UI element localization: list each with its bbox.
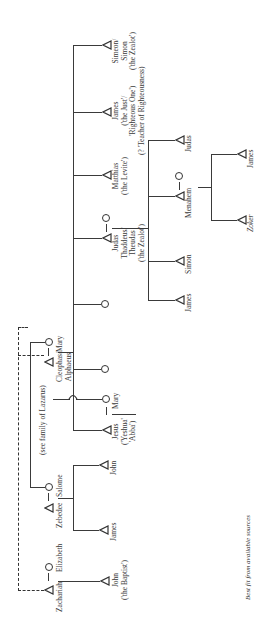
- judas-children-top: [148, 140, 149, 210]
- salome-female-icon: [45, 483, 53, 491]
- label-judas-son: Judas: [185, 135, 194, 152]
- line-to-judas-thaddeus: [73, 238, 102, 239]
- mary-wife-female-icon: [102, 395, 110, 403]
- label-james-just: James ('the Just'/ 'Righteous One') (? '…: [112, 66, 146, 155]
- line-crossover: [68, 394, 78, 400]
- label-matthias: Matthias ('the Levite'): [112, 157, 129, 195]
- dashed-link-zachariah: [18, 590, 44, 591]
- line-to-judas-son: [148, 140, 175, 141]
- zachariah-male-icon: [44, 585, 54, 595]
- line-zebedee-children: [58, 498, 74, 499]
- marriage-zachariah: [48, 573, 49, 581]
- label-simeon: Simeon/ Simon ('the Zealot'): [112, 32, 138, 70]
- line-menahem-children: [198, 187, 211, 188]
- line-to-jesus: [73, 430, 102, 431]
- marriage-judas: [106, 224, 107, 232]
- elizabeth-female-icon: [45, 563, 53, 571]
- zebedee-male-icon: [44, 503, 54, 513]
- line-to-james-menahem: [211, 154, 237, 155]
- label-john-baptist: John ('the Baptist'): [112, 560, 129, 600]
- label-james-son: James: [185, 294, 194, 312]
- line-to-zoker: [211, 220, 237, 221]
- line-to-simon-son: [148, 261, 175, 262]
- line-to-matthias: [73, 175, 102, 176]
- label-simon-son: Simon: [185, 254, 194, 274]
- john-baptist-male-icon: [100, 576, 110, 586]
- judas-children-bar: [148, 209, 149, 300]
- line-to-john-baptist: [58, 581, 100, 582]
- label-mary-wife: Mary: [112, 393, 121, 409]
- label-john-zebedee: John: [110, 461, 119, 475]
- label-zoker: Zoker: [247, 215, 256, 233]
- line-salome-mary: [30, 342, 31, 488]
- marriage-menahem: [179, 182, 180, 190]
- line-cleophas-children: [58, 352, 74, 353]
- line-to-james-son: [148, 300, 175, 301]
- john-zebedee-male-icon: [99, 460, 109, 470]
- label-menahem: Menahem: [185, 188, 194, 218]
- dashed-link-top: [18, 327, 28, 328]
- label-james-zebedee: James: [110, 523, 119, 541]
- line-mary-link: [30, 342, 45, 343]
- line-to-daughter-2: [73, 304, 101, 305]
- line-to-menahem: [148, 196, 175, 197]
- label-elizabeth: Elizabeth: [56, 544, 65, 572]
- judas-wife-female-icon: [102, 214, 110, 222]
- daughter-1-female-icon: [101, 365, 109, 373]
- label-james-menahem: James: [247, 150, 256, 168]
- label-jesus: Jesus ('Yeshua' 'Abba'): [112, 418, 138, 445]
- marriage-jesus: [106, 407, 107, 415]
- marriage-cleophas: [48, 348, 49, 356]
- label-judas-thaddeus: Judas Thaddeus/ Theudas ('the Zealot'): [112, 224, 146, 262]
- jesus-descendant-bar: [112, 414, 136, 415]
- zebedee-children-bar: [73, 465, 74, 531]
- label-zachariah: Zachariah: [56, 582, 65, 612]
- label-salome: Salome: [56, 475, 65, 498]
- line-judas-children: [112, 228, 148, 229]
- daughter-2-female-icon: [101, 300, 109, 308]
- line-to-james-just: [73, 112, 102, 113]
- line-to-james-z: [73, 530, 99, 531]
- line-salome-link: [30, 487, 45, 488]
- line-to-mary-wife: [76, 399, 102, 400]
- line-to-john-z: [73, 465, 99, 466]
- cleophas-male-icon: [44, 357, 54, 367]
- mary-cleophas-female-icon: [45, 338, 53, 346]
- label-see-lazarus: (see family of Lazarus): [39, 385, 48, 455]
- caption: Best fit from available sources: [244, 515, 253, 600]
- label-zebedee: Zebedee: [56, 503, 65, 528]
- dashed-link-vertical: [18, 327, 19, 591]
- label-cleophas: Cleophas/ Alphaeus: [56, 352, 73, 382]
- line-to-simeon: [73, 45, 102, 46]
- menahem-children-bar: [211, 154, 212, 220]
- marriage-zebedee: [48, 493, 49, 501]
- line-to-daughter-1: [73, 369, 101, 370]
- menahem-wife-female-icon: [175, 172, 183, 180]
- james-zebedee-male-icon: [99, 525, 109, 535]
- label-mary-cleophas: Mary: [56, 336, 65, 352]
